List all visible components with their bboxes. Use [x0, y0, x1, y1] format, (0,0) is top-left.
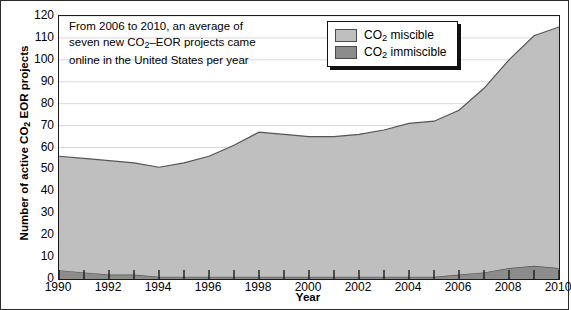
- annotation-text: seven new CO: [69, 36, 144, 48]
- y-tick-label: 90: [6, 74, 54, 88]
- x-axis-tick-marks: [59, 270, 559, 279]
- chart-annotation: From 2006 to 2010, an average ofseven ne…: [69, 19, 309, 68]
- legend-swatch-immiscible: [335, 46, 357, 59]
- legend-label-immiscible-post: immiscible: [387, 45, 446, 59]
- legend-label-miscible-post: miscible: [387, 28, 434, 42]
- y-tick-label: 110: [6, 30, 54, 44]
- y-tick-label: 70: [6, 118, 54, 132]
- legend-label-immiscible: CO2 immiscible: [364, 45, 447, 60]
- legend-label-miscible-pre: CO: [364, 28, 382, 42]
- annotation-text: –EOR projects came: [149, 36, 255, 48]
- legend-item-immiscible: CO2 immiscible: [335, 44, 447, 61]
- y-tick-label: 80: [6, 96, 54, 110]
- y-tick-label: 100: [6, 52, 54, 66]
- chart-legend: CO2 miscible CO2 immiscible: [327, 21, 458, 67]
- y-tick-label: 10: [6, 249, 54, 263]
- annotation-text: online in the United States per year: [69, 54, 249, 66]
- y-tick-label: 20: [6, 227, 54, 241]
- legend-label-immiscible-pre: CO: [364, 45, 382, 59]
- y-tick-label: 40: [6, 183, 54, 197]
- y-tick-label: 120: [6, 8, 54, 22]
- legend-swatch-miscible: [335, 29, 357, 42]
- annotation-line: From 2006 to 2010, an average of: [69, 19, 309, 35]
- legend-item-miscible: CO2 miscible: [335, 27, 447, 44]
- y-tick-label: 60: [6, 140, 54, 154]
- x-axis-title: Year: [58, 291, 558, 303]
- y-tick-label: 50: [6, 161, 54, 175]
- annotation-text: From 2006 to 2010, an average of: [69, 20, 243, 32]
- y-axis-tick-labels: 0102030405060708090100110120: [1, 1, 54, 310]
- legend-label-miscible: CO2 miscible: [364, 28, 434, 43]
- annotation-line: online in the United States per year: [69, 53, 309, 69]
- annotation-line: seven new CO2–EOR projects came: [69, 35, 309, 53]
- y-tick-label: 30: [6, 205, 54, 219]
